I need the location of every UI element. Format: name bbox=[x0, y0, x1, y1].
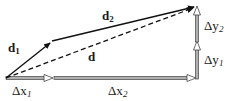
label-d: d bbox=[88, 49, 96, 64]
label-d1: d1 bbox=[8, 40, 20, 56]
label-d2: d2 bbox=[102, 8, 114, 24]
component-dx1-arrow bbox=[6, 75, 53, 82]
vector-diagram: d1 d2 d Δx1 Δx2 Δy1 Δy2 bbox=[0, 0, 231, 101]
label-dy2: Δy2 bbox=[204, 18, 224, 34]
component-dy1-arrow bbox=[194, 41, 201, 79]
label-dx1: Δx1 bbox=[12, 83, 31, 99]
label-dx2: Δx2 bbox=[108, 83, 128, 99]
vector-d-line bbox=[6, 8, 193, 78]
vector-d2-line bbox=[52, 7, 194, 41]
component-dx2-arrow bbox=[54, 75, 196, 82]
label-dy1: Δy1 bbox=[204, 52, 223, 68]
component-dy2-arrow bbox=[194, 6, 201, 42]
